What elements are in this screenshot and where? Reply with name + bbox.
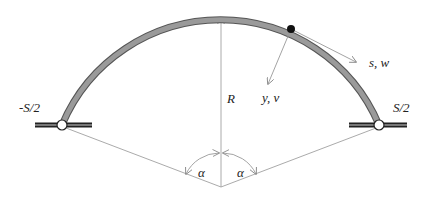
right-pin-icon bbox=[374, 120, 384, 130]
material-point bbox=[287, 25, 295, 33]
left-support-label: -S/2 bbox=[19, 101, 40, 114]
local-axes bbox=[268, 29, 356, 84]
arch-beam-fill bbox=[62, 20, 379, 125]
right-support bbox=[349, 120, 407, 130]
normal-axis-arrow bbox=[268, 29, 291, 84]
left-pin-icon bbox=[57, 120, 67, 130]
arch-beam bbox=[62, 20, 379, 125]
left-support bbox=[35, 120, 92, 130]
right-radius-line bbox=[221, 128, 376, 187]
tangent-axis-label: s, w bbox=[369, 56, 389, 69]
angle-right-label: α bbox=[237, 166, 244, 179]
construction-lines bbox=[66, 18, 376, 187]
normal-axis-label: y, v bbox=[262, 91, 279, 104]
radius-label: R bbox=[227, 92, 235, 105]
right-support-label: S/2 bbox=[393, 101, 410, 114]
arch-diagram bbox=[0, 0, 430, 201]
angle-left-label: α bbox=[198, 166, 205, 179]
